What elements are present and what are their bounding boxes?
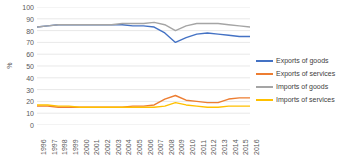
- legend-item-label: Imports of goods: [276, 83, 328, 91]
- legend-color-swatch: [256, 60, 273, 62]
- y-axis-tick-label: 30: [26, 86, 34, 93]
- x-axis-tick-label: 1998: [61, 139, 69, 155]
- y-axis-title: %: [6, 59, 13, 73]
- x-axis-tick-label: 1999: [72, 139, 80, 155]
- x-axis-tick-label: 2015: [242, 139, 250, 155]
- legend-color-swatch: [256, 99, 273, 101]
- plot-svg: [37, 7, 250, 125]
- y-axis-tick-label: 90: [26, 15, 34, 22]
- legend-item-label: Imports of services: [276, 96, 335, 104]
- legend-color-swatch: [256, 73, 273, 75]
- x-axis-tick-labels: 1996199719981999200020012002200320042005…: [37, 125, 250, 160]
- x-axis-tick-label: 2011: [200, 140, 208, 155]
- y-axis-tick-label: 20: [26, 98, 34, 105]
- x-axis-tick-label: 2009: [178, 139, 186, 155]
- x-axis-tick-label: 2003: [115, 139, 123, 155]
- y-axis-tick-label: 60: [26, 51, 34, 58]
- x-axis-tick-label: 2004: [125, 139, 133, 155]
- x-axis-tick-label: 2012: [210, 139, 218, 155]
- x-axis-tick-label: 2010: [189, 139, 197, 155]
- x-axis-tick-label: 2013: [221, 139, 229, 155]
- y-axis-tick-label: 10: [26, 110, 34, 117]
- legend-item[interactable]: Imports of services: [256, 93, 362, 106]
- legend-item[interactable]: Exports of goods: [256, 54, 362, 67]
- legend-item[interactable]: Imports of goods: [256, 80, 362, 93]
- plot-area: [37, 7, 250, 125]
- x-axis-tick-label: 2005: [136, 139, 144, 155]
- x-axis-tick-label: 2016: [253, 139, 261, 155]
- x-axis-tick-label: 2000: [83, 139, 91, 155]
- x-axis-tick-label: 2007: [157, 139, 165, 155]
- x-axis-tick-label: 2002: [104, 139, 112, 155]
- y-axis-tick-labels: 1009080706050403020100: [14, 7, 34, 125]
- y-axis-tick-label: 80: [26, 27, 34, 34]
- x-axis-tick-label: 1996: [40, 139, 48, 155]
- x-axis-tick-label: 2001: [93, 139, 101, 155]
- legend-item[interactable]: Exports of services: [256, 67, 362, 80]
- y-axis-tick-label: 0: [30, 122, 34, 129]
- x-axis-tick-label: 1997: [51, 139, 59, 155]
- legend-item-label: Exports of goods: [276, 57, 329, 65]
- legend-color-swatch: [256, 86, 273, 88]
- y-axis-tick-label: 70: [26, 39, 34, 46]
- series-line: [37, 25, 250, 43]
- x-axis-tick-label: 2014: [232, 139, 240, 155]
- y-axis-tick-label: 40: [26, 74, 34, 81]
- line-chart: % 1009080706050403020100 199619971998199…: [0, 0, 364, 160]
- x-axis-tick-label: 2008: [168, 139, 176, 155]
- chart-legend: Exports of goodsExports of servicesImpor…: [256, 54, 362, 106]
- y-axis-tick-label: 100: [22, 4, 34, 11]
- x-axis-tick-label: 2006: [147, 139, 155, 155]
- y-axis-tick-label: 50: [26, 63, 34, 70]
- legend-item-label: Exports of services: [276, 70, 335, 78]
